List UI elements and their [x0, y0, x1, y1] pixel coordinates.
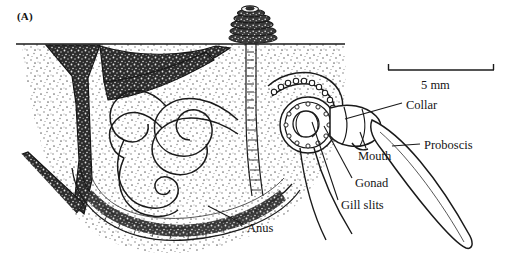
- figure-panel: (A) 5 mm Collar Proboscis Mouth Gonad Gi…: [0, 0, 524, 268]
- gonad-gill-basket: [280, 97, 336, 153]
- label-gill-slits: Gill slits: [341, 199, 384, 212]
- label-proboscis: Proboscis: [424, 139, 473, 152]
- panel-label: (A): [17, 10, 33, 22]
- fecal-cast: [229, 6, 277, 43]
- label-mouth: Mouth: [358, 150, 391, 163]
- scale-bar: [388, 64, 494, 70]
- scale-bar-label: 5 mm: [421, 78, 450, 93]
- label-anus: Anus: [247, 222, 273, 235]
- label-collar: Collar: [406, 99, 437, 112]
- label-gonad: Gonad: [355, 177, 388, 190]
